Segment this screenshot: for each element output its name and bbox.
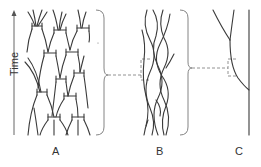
panel-label-c: C	[235, 145, 243, 157]
panel-a-tree	[25, 10, 90, 135]
brace-a	[96, 10, 108, 135]
brace-b	[180, 10, 192, 135]
panel-c-lineage	[213, 10, 249, 135]
panel-label-a: A	[52, 145, 59, 157]
panel-label-b: B	[156, 145, 163, 157]
diagram-canvas	[0, 0, 261, 167]
panel-b-braid	[142, 10, 174, 135]
time-axis-label: Time	[8, 52, 20, 76]
